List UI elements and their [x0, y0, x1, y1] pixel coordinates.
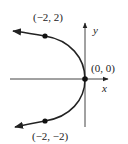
parabola-upper-branch [13, 31, 85, 79]
point-origin [82, 76, 88, 82]
point-label-neg2-2: (−2, 2) [33, 12, 63, 23]
x-axis-label: x [102, 83, 107, 94]
parabola-lower-branch [15, 79, 85, 127]
point-label-origin: (0, 0) [91, 63, 115, 74]
point-label-neg2-neg2: (−2, −2) [32, 131, 68, 142]
y-axis-label: y [93, 25, 98, 36]
point-neg2-neg2 [42, 118, 47, 123]
point-neg2-2 [42, 33, 47, 38]
